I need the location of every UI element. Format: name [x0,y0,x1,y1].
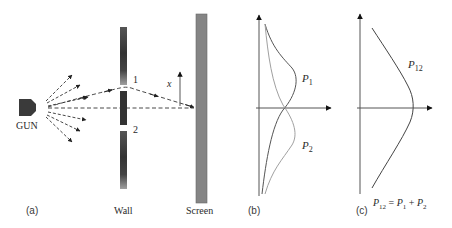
p12-label: P12 [407,58,423,73]
p2-curve [265,24,295,194]
panel-a-label: (a) [26,205,38,216]
x-axis-label: x [166,78,172,89]
screen-label: Screen [186,205,213,216]
panel-c-label: (c) [356,205,368,216]
panel-b: P1 P2 (b) [248,15,331,216]
gun-icon [19,99,36,116]
wall-label: Wall [114,205,133,216]
wall [120,27,127,189]
particle-spray-arrows [46,75,88,142]
p1-label: P1 [301,72,313,87]
p2-label: P2 [301,139,313,154]
gun-label: GUN [16,120,38,131]
sum-equation: P12 = P1 + P2 [372,197,427,211]
slit-2-label: 2 [133,124,138,135]
panel-a: GUN 1 2 x (a) W [16,14,213,216]
slit-1-label: 1 [133,74,138,85]
screen [196,14,207,203]
double-slit-diagram: GUN 1 2 x (a) W [0,0,452,228]
panel-c: P12 P12 = P1 + P2 (c) [356,14,432,216]
panel-b-label: (b) [248,205,260,216]
p1-curve [262,24,296,194]
